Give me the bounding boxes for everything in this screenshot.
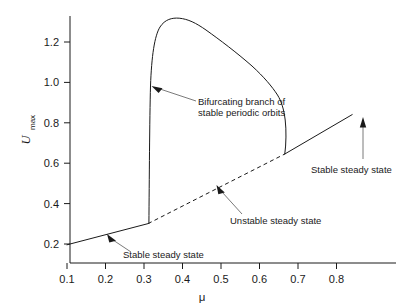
curve-unstable-steady-state bbox=[148, 154, 285, 224]
x-tick-label-5: 0.6 bbox=[252, 273, 267, 285]
x-tick-label-6: 0.7 bbox=[290, 273, 305, 285]
y-tick-label-2: 0.6 bbox=[44, 157, 59, 169]
y-axis-title-sub: max bbox=[28, 115, 37, 130]
arrow-head-bifurcating bbox=[152, 86, 163, 93]
leader-line-unstable bbox=[222, 192, 242, 214]
x-tick-label-7: 0.8 bbox=[329, 273, 344, 285]
x-tick-group: 0.1 0.2 0.3 0.4 0.5 0.6 0.7 0.8 bbox=[59, 263, 344, 285]
y-tick-label-1: 0.4 bbox=[44, 198, 59, 210]
x-tick-label-1: 0.2 bbox=[98, 273, 113, 285]
leader-line-bifurcating bbox=[160, 89, 196, 101]
y-tick-label-5: 1.2 bbox=[44, 36, 59, 48]
annotation-stable-left-label: Stable steady state bbox=[123, 249, 204, 260]
annotation-unstable-steady-state: Unstable steady state bbox=[217, 185, 322, 226]
y-axis-title-group: U max bbox=[19, 115, 37, 145]
x-tick-label-4: 0.5 bbox=[213, 273, 228, 285]
annotation-bifurcating-line2: stable periodic orbits bbox=[198, 107, 285, 118]
annotation-bifurcating-line1: Bifurcating branch of bbox=[198, 96, 285, 107]
y-tick-label-4: 1.0 bbox=[44, 76, 59, 88]
annotation-bifurcating-branch: Bifurcating branch of stable periodic or… bbox=[152, 86, 286, 118]
y-tick-label-0: 0.2 bbox=[44, 238, 59, 250]
curve-stable-steady-state-right bbox=[285, 115, 352, 154]
bifurcation-diagram-figure: 0.2 0.4 0.6 0.8 1.0 1.2 0.1 0.2 0.3 0.4 … bbox=[0, 0, 404, 308]
annotation-stable-right-label: Stable steady state bbox=[311, 164, 392, 175]
x-tick-label-3: 0.4 bbox=[175, 273, 190, 285]
plot-canvas: 0.2 0.4 0.6 0.8 1.0 1.2 0.1 0.2 0.3 0.4 … bbox=[0, 0, 404, 308]
annotation-stable-steady-state-right: Stable steady state bbox=[311, 117, 392, 175]
y-tick-label-3: 0.8 bbox=[44, 117, 59, 129]
annotation-unstable-label: Unstable steady state bbox=[230, 215, 321, 226]
annotation-stable-steady-state-left: Stable steady state bbox=[107, 234, 204, 260]
x-tick-label-0: 0.1 bbox=[59, 273, 74, 285]
curve-stable-steady-state-left bbox=[67, 224, 148, 245]
y-tick-group: 0.2 0.4 0.6 0.8 1.0 1.2 bbox=[44, 36, 70, 250]
curve-bifurcating-periodic-branch bbox=[149, 18, 286, 224]
y-axis-title-main: U bbox=[19, 135, 33, 145]
arrow-head-stable-right bbox=[360, 117, 366, 128]
x-tick-label-2: 0.3 bbox=[136, 273, 151, 285]
x-axis-title: μ bbox=[199, 291, 206, 303]
